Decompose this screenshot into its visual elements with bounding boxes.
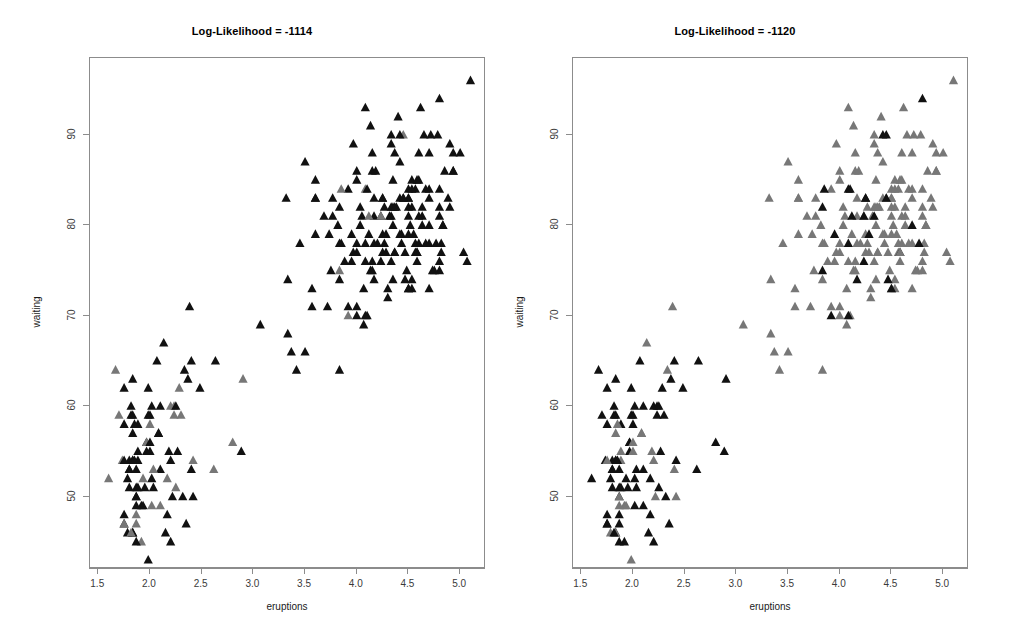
y-tick-label: 80 <box>549 219 560 230</box>
scatter-marker <box>435 184 444 193</box>
scatter-marker <box>369 275 378 284</box>
scatter-marker <box>311 193 320 202</box>
y-tick <box>83 224 89 225</box>
x-axis-title-right: eruptions <box>572 601 968 612</box>
scatter-marker <box>818 202 827 211</box>
scatter-marker <box>147 474 156 483</box>
x-tick <box>684 568 685 574</box>
scatter-marker <box>918 94 927 103</box>
scatter-marker <box>842 284 851 293</box>
scatter-marker <box>908 220 917 229</box>
scatter-marker <box>349 139 358 148</box>
scatter-marker <box>866 284 875 293</box>
scatter-marker <box>395 157 404 166</box>
scatter-marker <box>388 275 397 284</box>
scatter-marker <box>287 347 296 356</box>
panel-title-right: Log-Likelihood = -1120 <box>483 25 987 37</box>
x-tick <box>252 568 253 574</box>
scatter-marker <box>880 238 889 247</box>
scatter-marker <box>883 247 892 256</box>
scatter-marker <box>632 483 641 492</box>
scatter-marker <box>414 148 423 157</box>
scatter-marker <box>359 284 368 293</box>
scatter-marker <box>644 528 653 537</box>
scatter-marker <box>419 130 428 139</box>
scatter-marker <box>630 401 639 410</box>
scatter-marker <box>292 365 301 374</box>
x-tick <box>407 568 408 574</box>
scatter-marker <box>209 465 218 474</box>
scatter-marker <box>361 103 370 112</box>
x-tick <box>459 568 460 574</box>
plot-frame-right <box>572 57 968 568</box>
scatter-marker <box>188 492 197 501</box>
scatter-marker <box>606 474 615 483</box>
scatter-marker <box>835 311 844 320</box>
scatter-marker <box>895 256 904 265</box>
scatter-marker <box>156 501 165 510</box>
scatter-marker <box>120 510 129 519</box>
scatter-marker <box>400 247 409 256</box>
scatter-marker <box>830 256 839 265</box>
scatter-points-right <box>573 58 967 567</box>
x-tick-label: 5.0 <box>452 578 466 589</box>
scatter-marker <box>870 139 879 148</box>
scatter-marker <box>863 238 872 247</box>
scatter-marker <box>168 492 177 501</box>
scatter-marker <box>847 229 856 238</box>
scatter-marker <box>615 519 624 528</box>
scatter-marker <box>144 555 153 564</box>
x-tick-label: 4.5 <box>401 578 415 589</box>
scatter-marker <box>126 401 135 410</box>
y-tick-label: 90 <box>549 128 560 139</box>
scatter-marker <box>739 320 748 329</box>
scatter-marker <box>616 446 625 455</box>
scatter-marker <box>173 446 182 455</box>
scatter-marker <box>161 528 170 537</box>
scatter-marker <box>369 193 378 202</box>
scatter-marker <box>211 356 220 365</box>
scatter-marker <box>335 275 344 284</box>
scatter-marker <box>811 211 820 220</box>
scatter-marker <box>325 229 334 238</box>
scatter-marker <box>440 166 449 175</box>
scatter-marker <box>138 474 147 483</box>
scatter-marker <box>594 365 603 374</box>
scatter-marker <box>873 247 882 256</box>
scatter-marker <box>615 510 624 519</box>
scatter-marker <box>816 220 825 229</box>
scatter-marker <box>256 320 265 329</box>
scatter-marker <box>783 347 792 356</box>
scatter-marker <box>466 76 475 85</box>
scatter-marker <box>939 148 948 157</box>
scatter-marker <box>443 193 452 202</box>
scatter-marker <box>388 175 397 184</box>
scatter-marker <box>844 103 853 112</box>
scatter-marker <box>692 465 701 474</box>
scatter-marker <box>870 130 879 139</box>
scatter-marker <box>766 275 775 284</box>
y-tick-label: 60 <box>66 400 77 411</box>
scatter-marker <box>195 383 204 392</box>
scatter-marker <box>665 519 674 528</box>
scatter-marker <box>671 455 680 464</box>
y-tick-label: 60 <box>549 400 560 411</box>
scatter-marker <box>328 211 337 220</box>
scatter-marker <box>111 365 120 374</box>
plot-panel-right: Log-Likelihood = -1120 1.52.02.53.03.54.… <box>483 0 987 643</box>
scatter-marker <box>908 193 917 202</box>
scatter-marker <box>711 437 720 446</box>
y-tick <box>83 496 89 497</box>
scatter-marker <box>132 510 141 519</box>
scatter-marker <box>114 410 123 419</box>
scatter-marker <box>611 428 620 437</box>
scatter-marker <box>295 238 304 247</box>
scatter-marker <box>120 419 129 428</box>
scatter-marker <box>149 483 158 492</box>
scatter-marker <box>132 519 141 528</box>
scatter-marker <box>908 284 917 293</box>
scatter-marker <box>383 284 392 293</box>
plot-frame-left <box>89 57 485 568</box>
y-tick <box>83 315 89 316</box>
scatter-marker <box>611 374 620 383</box>
